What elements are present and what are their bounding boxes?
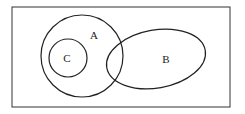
venn-diagram: A B C bbox=[0, 0, 245, 114]
universe-rectangle bbox=[12, 7, 230, 107]
set-a-label: A bbox=[90, 29, 98, 41]
set-c-label: C bbox=[63, 52, 70, 64]
set-a-circle bbox=[41, 15, 123, 97]
set-b-label: B bbox=[162, 53, 169, 65]
set-b-ellipse bbox=[102, 22, 211, 96]
